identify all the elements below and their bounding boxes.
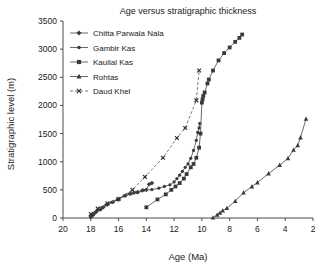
legend-item: Daud Khel <box>70 87 131 96</box>
x-tick-label: 8 <box>227 224 232 234</box>
x-tick-label: 16 <box>114 224 124 234</box>
x-tick-label: 10 <box>197 224 207 234</box>
legend-label: Kaulial Kas <box>93 58 133 67</box>
chart-container: Age versus stratigraphic thickness Strat… <box>0 0 329 266</box>
age-vs-stratigraphic-thickness-chart: Age versus stratigraphic thickness Strat… <box>0 0 329 266</box>
x-tick-label: 6 <box>255 224 260 234</box>
legend-label: Rohtas <box>93 73 118 82</box>
legend-label: Chitta Parwala Nala <box>93 29 164 38</box>
x-tick-label: 2 <box>311 224 316 234</box>
legend-label: Daud Khel <box>93 87 131 96</box>
chart-legend: Chitta Parwala NalaGambir KasKaulial Kas… <box>70 29 164 96</box>
x-tick-label: 12 <box>169 224 179 234</box>
x-axis-label: Age (Ma) <box>168 251 207 262</box>
y-tick-label: 3500 <box>38 16 57 26</box>
legend-item: Chitta Parwala Nala <box>70 29 164 38</box>
x-tick-label: 4 <box>283 224 288 234</box>
y-tick-label: 2500 <box>38 72 57 82</box>
chart-title: Age versus stratigraphic thickness <box>120 6 257 16</box>
legend-label: Gambir Kas <box>93 44 135 53</box>
x-tick-label: 20 <box>58 224 68 234</box>
y-tick-label: 500 <box>43 185 57 195</box>
x-tick-label: 14 <box>142 224 152 234</box>
legend-item: Gambir Kas <box>70 44 135 53</box>
y-axis-ticks: 0500100015002000250030003500 <box>38 16 63 223</box>
y-axis-label: Stratigraphic level (m) <box>5 78 16 170</box>
x-tick-label: 18 <box>86 224 96 234</box>
data-series <box>88 181 154 219</box>
y-tick-label: 0 <box>52 213 57 223</box>
x-axis-ticks: 2018161412108642 <box>58 218 315 234</box>
data-series <box>211 116 309 219</box>
legend-item: Rohtas <box>70 73 118 82</box>
data-series <box>144 33 244 210</box>
y-tick-label: 1000 <box>38 157 57 167</box>
legend-item: Kaulial Kas <box>70 58 133 67</box>
y-tick-label: 1500 <box>38 129 57 139</box>
y-tick-label: 3000 <box>38 44 57 54</box>
y-tick-label: 2000 <box>38 100 57 110</box>
